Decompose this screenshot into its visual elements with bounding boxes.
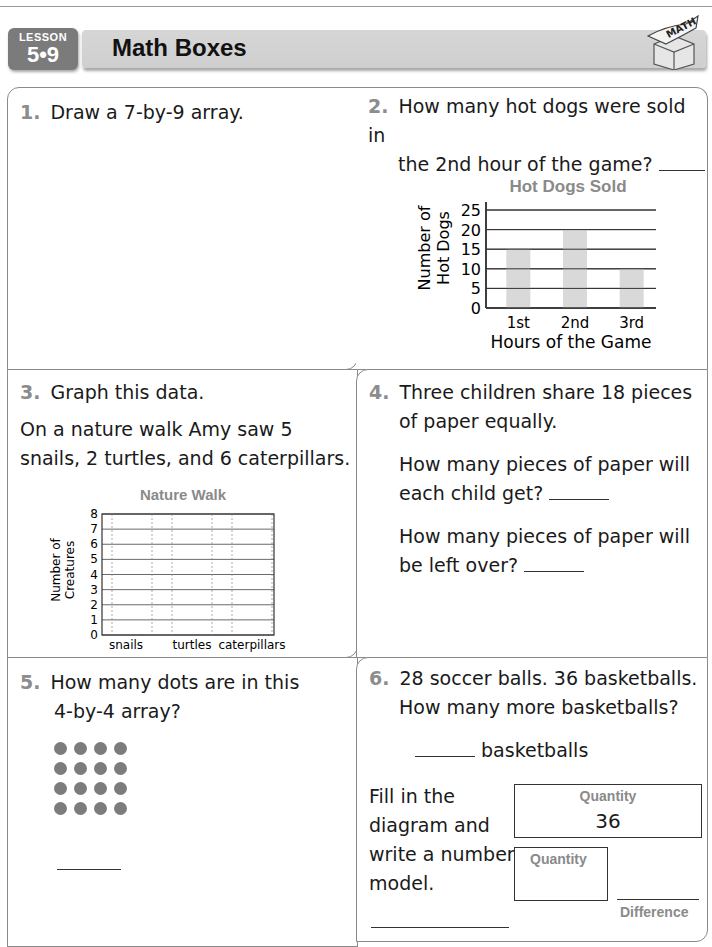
math-box-4: 4.Three children share 18 pieces of pape… — [356, 369, 708, 658]
array-dot — [94, 782, 107, 795]
quantity-label: Quantity — [530, 851, 587, 867]
title-bar: Math Boxes — [82, 30, 706, 68]
y-tick-label: 3 — [90, 583, 98, 597]
x-tick-label: 2nd — [561, 314, 590, 332]
hot-dogs-chart: Hot Dogs Sold 0510152025 1st2nd3rd Numbe… — [396, 168, 666, 358]
array-dot — [94, 742, 107, 755]
sub-question-1-line-2: each child get? — [399, 482, 543, 504]
difference-blank[interactable] — [617, 898, 699, 900]
array-dot — [74, 782, 87, 795]
answer-blank-left-over[interactable] — [524, 570, 584, 572]
math-box-3: 3.Graph this data. On a nature walk Amy … — [7, 369, 358, 658]
sub-question-2-line-1: How many pieces of paper will — [369, 522, 692, 551]
answer-blank-basketballs[interactable] — [415, 755, 475, 757]
math-box-1: 1.Draw a 7-by-9 array. — [7, 87, 358, 370]
number-model-blank[interactable] — [371, 926, 509, 928]
y-tick-label: 2 — [90, 598, 98, 612]
y-tick-label: 15 — [461, 240, 481, 259]
array-dot — [94, 762, 107, 775]
y-tick-label: 0 — [471, 299, 481, 318]
chart-title: Nature Walk — [140, 486, 227, 503]
array-dot — [74, 742, 87, 755]
nature-walk-chart: Nature Walk 012345678 snailsturtlescater… — [48, 480, 288, 655]
y-tick-label: 8 — [90, 507, 98, 521]
y-tick-label: 10 — [461, 260, 481, 279]
y-tick-label: 4 — [90, 568, 98, 582]
array-dot — [114, 742, 127, 755]
instruction-line-4: model. — [369, 869, 515, 898]
y-tick-label: 25 — [461, 201, 481, 220]
question-3: 3.Graph this data. On a nature walk Amy … — [20, 378, 350, 473]
quantity-label: Quantity — [515, 788, 701, 804]
question-number: 2. — [368, 95, 388, 117]
array-dot — [74, 762, 87, 775]
instruction-line-3: write a number — [369, 840, 515, 869]
difference-label: Difference — [620, 904, 688, 920]
question-number: 1. — [20, 101, 40, 123]
x-tick-label: caterpillars — [218, 638, 285, 652]
question-text-line-2: 4-by-4 array? — [20, 697, 299, 726]
answer-unit: basketballs — [481, 739, 588, 761]
quantity-value: 36 — [515, 809, 701, 833]
y-tick-label: 7 — [90, 522, 98, 536]
question-number: 4. — [369, 381, 389, 403]
y-axis-label-line-2: Creatures — [63, 541, 77, 599]
array-dot — [54, 782, 67, 795]
instruction-line-2: diagram and — [369, 811, 515, 840]
lesson-badge: LESSON 5•9 — [8, 28, 78, 70]
question-number: 6. — [369, 667, 389, 689]
array-dot — [74, 802, 87, 815]
y-tick-label: 20 — [461, 221, 481, 240]
x-tick-label: snails — [109, 638, 143, 652]
x-tick-label: turtles — [173, 638, 212, 652]
math-box-5: 5.How many dots are in this 4-by-4 array… — [7, 657, 358, 947]
question-6: 6.28 soccer balls. 36 basketballs. How m… — [369, 664, 697, 765]
array-dot — [114, 782, 127, 795]
sub-question-1-line-1: How many pieces of paper will — [369, 450, 692, 479]
math-box-logo-icon: MATH — [636, 14, 706, 70]
x-axis-label: Hours of the Game — [491, 332, 652, 352]
question-text: Graph this data. — [50, 381, 204, 403]
question-text: Draw a 7-by-9 array. — [50, 101, 243, 123]
array-dot — [114, 762, 127, 775]
y-axis-label-line-2: Hot Dogs — [434, 211, 453, 285]
data-text-line-2: snails, 2 turtles, and 6 caterpillars. — [20, 444, 350, 473]
data-text-line-1: On a nature walk Amy saw 5 — [20, 415, 350, 444]
question-2: 2.How many hot dogs were sold in the 2nd… — [368, 92, 707, 179]
y-axis-label-line-1: Number of — [415, 205, 434, 290]
top-rule — [0, 6, 712, 7]
y-tick-label: 5 — [471, 279, 481, 298]
y-tick-label: 1 — [90, 613, 98, 627]
array-dot — [94, 802, 107, 815]
array-dot — [54, 802, 67, 815]
array-dot — [114, 802, 127, 815]
bar-1st — [506, 249, 530, 308]
instructions: Fill in the diagram and write a number m… — [369, 782, 515, 898]
question-text-line-1: How many dots are in this — [50, 671, 299, 693]
answer-blank-each-child[interactable] — [549, 498, 609, 500]
lesson-number: 5•9 — [8, 43, 78, 67]
array-dot — [54, 762, 67, 775]
instruction-line-1: Fill in the — [369, 782, 515, 811]
question-1: 1.Draw a 7-by-9 array. — [20, 98, 244, 127]
page-title: Math Boxes — [112, 34, 247, 62]
question-text-line-1: Three children share 18 pieces — [399, 381, 692, 403]
question-text-line-1: How many hot dogs were sold in — [368, 95, 685, 146]
question-number: 5. — [20, 671, 40, 693]
chart-title: Hot Dogs Sold — [509, 177, 626, 196]
answer-blank[interactable] — [57, 868, 121, 870]
math-box-6: 6.28 soccer balls. 36 basketballs. How m… — [356, 657, 708, 942]
x-tick-label: 3rd — [619, 314, 644, 332]
quantity-box-small[interactable]: Quantity — [514, 847, 608, 901]
question-text-line-2: of paper equally. — [369, 407, 692, 436]
array-dot — [54, 742, 67, 755]
x-tick-label: 1st — [507, 314, 530, 332]
math-box-2: 2.How many hot dogs were sold in the 2nd… — [356, 87, 708, 370]
quantity-box-large[interactable]: Quantity 36 — [514, 784, 702, 838]
question-5: 5.How many dots are in this 4-by-4 array… — [20, 668, 299, 726]
y-tick-label: 0 — [90, 628, 98, 642]
y-tick-label: 6 — [90, 537, 98, 551]
y-tick-label: 5 — [90, 552, 98, 566]
dot-array — [54, 742, 144, 832]
question-text-line-2: How many more basketballs? — [369, 693, 697, 722]
